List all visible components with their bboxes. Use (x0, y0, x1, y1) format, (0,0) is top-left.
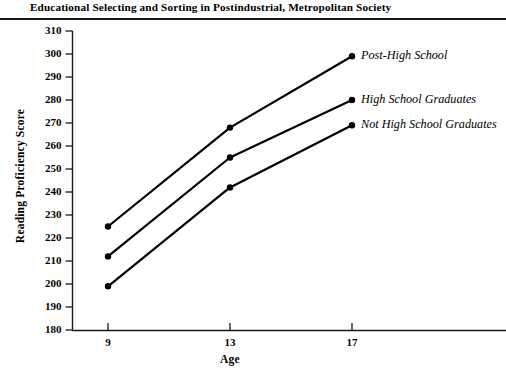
series-label: High School Graduates (361, 93, 476, 105)
y-axis-tick-label: 260 (22, 140, 62, 151)
line-chart: Reading Proficiency Score Age 3103002902… (0, 20, 506, 373)
y-axis-tick-marks (66, 31, 73, 330)
plot-area (0, 20, 506, 373)
y-axis-tick-label: 300 (22, 48, 62, 59)
series-line (108, 56, 352, 226)
y-axis-tick-label: 230 (22, 209, 62, 220)
x-axis-tick-label: 17 (332, 337, 372, 348)
y-axis-tick-label: 240 (22, 186, 62, 197)
running-head-title: Educational Selecting and Sorting in Pos… (30, 1, 391, 13)
series-label: Post-High School (361, 49, 447, 61)
data-point-marker (105, 223, 111, 229)
y-axis-tick-label: 280 (22, 94, 62, 105)
data-point-marker (105, 283, 111, 289)
y-axis-tick-label: 210 (22, 255, 62, 266)
data-point-marker (349, 97, 355, 103)
series-label: Not High School Graduates (361, 118, 497, 130)
data-point-marker (349, 122, 355, 128)
data-point-marker (227, 124, 233, 130)
x-axis-tick-label: 9 (88, 337, 128, 348)
y-axis-tick-label: 290 (22, 71, 62, 82)
x-axis-tick-marks (108, 323, 352, 330)
x-axis-tick-label: 13 (210, 337, 250, 348)
data-point-marker (227, 184, 233, 190)
y-axis-tick-label: 220 (22, 232, 62, 243)
y-axis-tick-label: 270 (22, 117, 62, 128)
running-head: Educational Selecting and Sorting in Pos… (0, 0, 506, 20)
series-markers (105, 53, 355, 289)
data-point-marker (105, 253, 111, 259)
series-line (108, 100, 352, 256)
data-point-marker (227, 154, 233, 160)
y-axis-tick-label: 180 (22, 324, 62, 335)
y-axis-tick-label: 200 (22, 278, 62, 289)
y-axis-tick-label: 310 (22, 25, 62, 36)
data-point-marker (349, 53, 355, 59)
series-lines (108, 56, 352, 286)
series-line (108, 125, 352, 286)
y-axis-tick-label: 190 (22, 301, 62, 312)
y-axis-tick-label: 250 (22, 163, 62, 174)
